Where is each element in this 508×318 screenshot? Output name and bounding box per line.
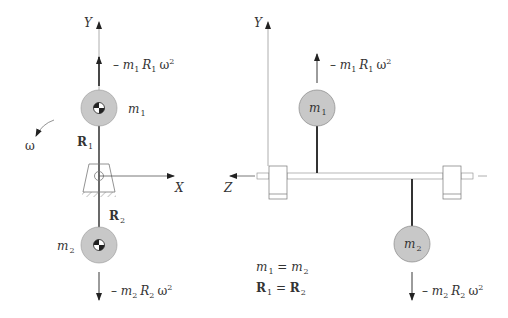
equation-radii-equal: R1 = R2 — [256, 281, 306, 297]
left-r1-label: R1 — [77, 135, 93, 151]
left-mass1-label: m1 — [128, 102, 145, 118]
left-r2-label: R2 — [109, 209, 125, 225]
left-mass2 — [81, 227, 117, 263]
right-force2-label: – m2R2ω2 — [422, 283, 483, 300]
equation-masses-equal: m1 = m2 — [256, 260, 309, 276]
bearing-right — [443, 166, 461, 199]
left-mass2-label: m2 — [57, 239, 74, 255]
right-y-axis-label: Y — [254, 16, 263, 30]
right-z-axis-label: Z — [223, 181, 233, 195]
omega-label: ω — [25, 139, 35, 153]
center-of-gravity-icon — [94, 103, 105, 114]
bearing-left — [269, 166, 287, 199]
left-mass1 — [81, 90, 117, 126]
center-of-gravity-icon — [94, 240, 105, 251]
left-force1-label: – m1R1ω2 — [113, 57, 174, 74]
left-view: Y – m1R1ω2 X m1 — [25, 16, 184, 300]
right-view: Y Z m1 – m1R1ω2 — [223, 16, 487, 300]
left-x-axis-label: X — [174, 181, 184, 195]
diagram-canvas: Y – m1R1ω2 X m1 — [0, 0, 508, 318]
left-y-axis-label: Y — [84, 16, 93, 30]
right-force1-label: – m1R1ω2 — [330, 57, 391, 74]
left-force2-label: – m2R2ω2 — [111, 283, 172, 300]
omega-rotation-icon — [36, 120, 54, 136]
shaft — [257, 173, 473, 179]
